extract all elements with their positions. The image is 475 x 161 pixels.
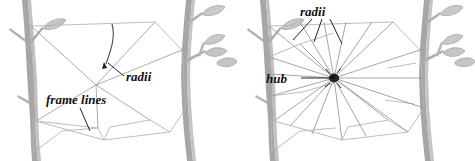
radii-group-complete [269, 22, 424, 140]
label-radii: radii [108, 63, 152, 84]
panel-left-canvas: frame lines radii [0, 0, 237, 161]
right-tree-branch [419, 0, 455, 161]
frame-lines-label: frame lines [46, 92, 106, 107]
right-tree-branch [181, 0, 217, 161]
spider-web-construction-figure: frame lines radii [0, 0, 475, 161]
frame-lines-group [31, 22, 186, 152]
panel-frame-and-first-radii: frame lines radii [0, 0, 237, 161]
panel-right-canvas: radii hub [238, 0, 475, 161]
radii-label: radii [300, 4, 326, 19]
panel-completed-radii-and-hub: radii hub [238, 0, 475, 161]
left-tree-branch [9, 0, 44, 161]
hub-label: hub [266, 71, 287, 86]
right-tree-leaves-icon [203, 5, 237, 66]
radii-group-initial [31, 22, 182, 128]
left-tree-leaf-icon [44, 19, 66, 30]
radii-label: radii [126, 69, 152, 84]
left-tree-leaf-icon [282, 19, 304, 30]
right-tree-leaves-icon [441, 5, 475, 66]
frame-lines-leader-line [80, 108, 90, 131]
dragline-in-progress [106, 24, 113, 64]
